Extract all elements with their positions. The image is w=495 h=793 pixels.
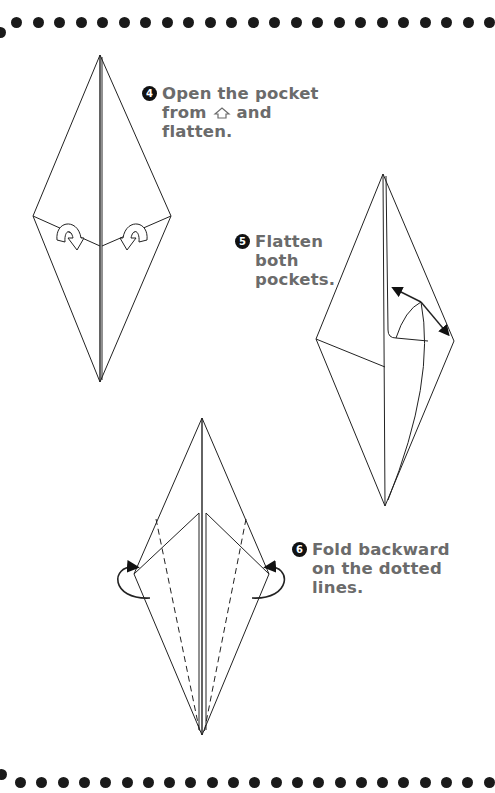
step5-diagram bbox=[316, 174, 454, 506]
step-4-line-2-text: from bbox=[162, 103, 213, 122]
step-4-line-2: from and bbox=[162, 103, 272, 123]
step-number-badge: 5 bbox=[235, 234, 250, 249]
step-5-line-1: Flatten bbox=[255, 232, 323, 251]
step-5-line-2: both bbox=[255, 251, 299, 270]
step-6-line-1: Fold backward bbox=[312, 540, 450, 559]
step-6-line-3: lines. bbox=[312, 578, 364, 597]
step-4-line-3: flatten. bbox=[162, 122, 233, 141]
house-outline-icon bbox=[213, 104, 231, 123]
step-number-badge: 6 bbox=[292, 542, 307, 557]
step-4-line-1: Open the pocket bbox=[162, 84, 319, 103]
step4-diagram bbox=[33, 55, 171, 382]
step6-diagram bbox=[118, 418, 285, 735]
step-number-badge: 4 bbox=[142, 86, 157, 101]
step-4-line-2-tail: and bbox=[231, 103, 272, 122]
step-6-line-2: on the dotted bbox=[312, 559, 442, 578]
step-5-line-3: pockets. bbox=[255, 270, 335, 289]
